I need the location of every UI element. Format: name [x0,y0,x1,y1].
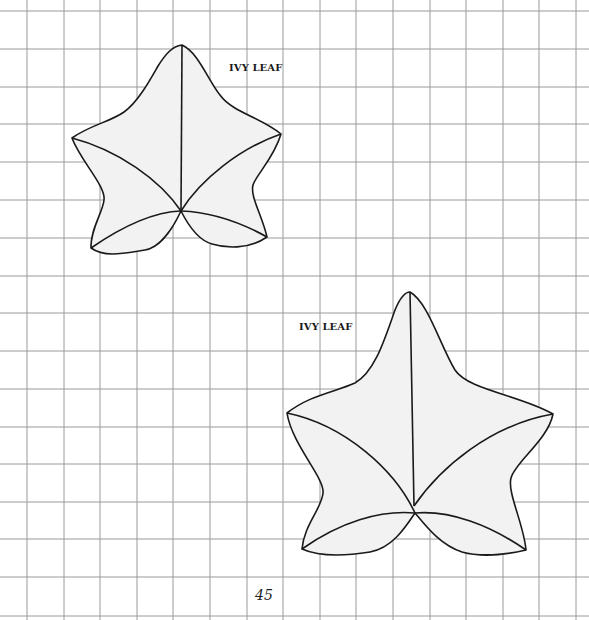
graph-paper-grid [0,0,589,620]
pattern-page: IVY LEAF IVY LEAF 45 [0,0,589,620]
page-number: 45 [255,587,273,603]
ivy-leaf-large-label: IVY LEAF [299,321,352,332]
ivy-leaf-small-label: IVY LEAF [229,62,282,73]
ivy-leaf-small-shape [72,45,281,254]
